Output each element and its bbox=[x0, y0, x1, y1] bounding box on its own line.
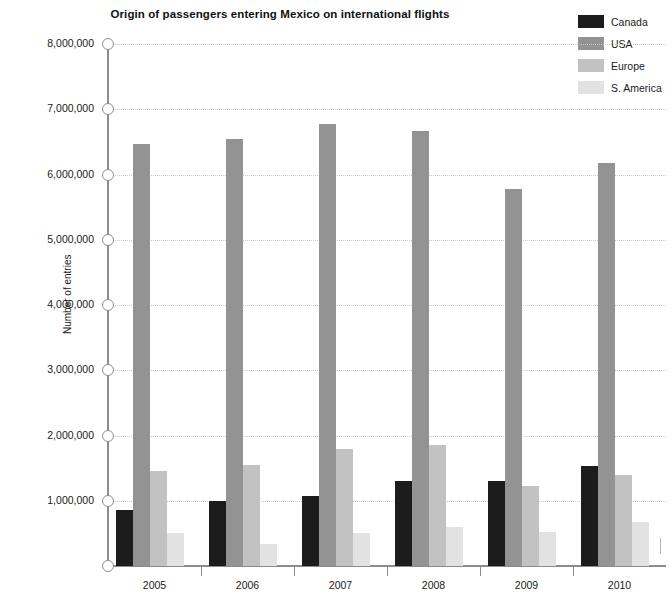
bar-2009-s-america[interactable] bbox=[539, 532, 556, 566]
bar-2009-canada[interactable] bbox=[488, 481, 505, 566]
bar-2006-europe[interactable] bbox=[243, 465, 260, 566]
bar-2009-europe[interactable] bbox=[522, 486, 539, 566]
bar-2007-s-america[interactable] bbox=[353, 533, 370, 566]
y-axis-tick-label: 7,000,000 bbox=[47, 102, 94, 114]
y-axis-tick-label: 3,000,000 bbox=[47, 363, 94, 375]
bar-2007-usa[interactable] bbox=[319, 124, 336, 566]
x-axis-tick-label: 2010 bbox=[575, 579, 665, 591]
bar-2008-canada[interactable] bbox=[395, 481, 412, 566]
x-axis-tick-label: 2009 bbox=[482, 579, 572, 591]
x-axis-tick bbox=[387, 567, 388, 576]
y-axis-tick-marker bbox=[102, 560, 114, 572]
bar-2006-s-america[interactable] bbox=[260, 544, 277, 566]
y-axis-tick-label: 5,000,000 bbox=[47, 233, 94, 245]
y-axis-tick-label: 2,000,000 bbox=[47, 429, 94, 441]
bar-chart: Origin of passengers entering Mexico on … bbox=[0, 0, 672, 609]
chart-title: Origin of passengers entering Mexico on … bbox=[0, 8, 560, 20]
y-axis-tick-label: 6,000,000 bbox=[47, 168, 94, 180]
y-axis-tick-marker bbox=[102, 38, 114, 50]
x-axis-tick bbox=[201, 567, 202, 576]
y-axis-tick-marker bbox=[102, 430, 114, 442]
bar-2010-usa[interactable] bbox=[598, 163, 615, 566]
y-axis-tick-marker bbox=[102, 495, 114, 507]
y-axis-tick-label: 8,000,000 bbox=[47, 37, 94, 49]
y-axis-tick-marker bbox=[102, 169, 114, 181]
bar-2008-usa[interactable] bbox=[412, 131, 429, 566]
bar-2008-s-america[interactable] bbox=[446, 527, 463, 566]
bar-2010-canada[interactable] bbox=[581, 466, 598, 566]
right-edge-tick bbox=[660, 538, 661, 554]
x-axis-tick-label: 2006 bbox=[203, 579, 293, 591]
bar-2007-canada[interactable] bbox=[302, 496, 319, 566]
x-axis-tick-label: 2005 bbox=[110, 579, 200, 591]
bar-2005-europe[interactable] bbox=[150, 471, 167, 566]
bar-2010-europe[interactable] bbox=[615, 475, 632, 566]
x-axis-tick-label: 2007 bbox=[296, 579, 386, 591]
bar-2008-europe[interactable] bbox=[429, 445, 446, 566]
y-axis-title: Number of entries bbox=[62, 255, 73, 334]
bar-2010-s-america[interactable] bbox=[632, 522, 649, 566]
bar-2005-usa[interactable] bbox=[133, 144, 150, 566]
bar-2005-s-america[interactable] bbox=[167, 533, 184, 566]
x-axis-tick-label: 2008 bbox=[389, 579, 479, 591]
y-axis-tick-marker bbox=[102, 299, 114, 311]
x-axis-tick bbox=[573, 567, 574, 576]
y-axis-tick-label: 1,000,000 bbox=[47, 494, 94, 506]
bar-2005-canada[interactable] bbox=[116, 510, 133, 566]
x-axis-tick bbox=[480, 567, 481, 576]
bar-2009-usa[interactable] bbox=[505, 189, 522, 566]
bar-2006-canada[interactable] bbox=[209, 501, 226, 566]
y-axis-tick-label: 4,000,000 bbox=[47, 298, 94, 310]
legend-label: Canada bbox=[611, 16, 648, 28]
legend-swatch-icon bbox=[578, 15, 604, 28]
bars-layer bbox=[108, 44, 666, 566]
bar-2006-usa[interactable] bbox=[226, 139, 243, 566]
bar-2007-europe[interactable] bbox=[336, 449, 353, 566]
x-axis-tick bbox=[294, 567, 295, 576]
y-axis-tick-marker bbox=[102, 234, 114, 246]
legend-item-canada[interactable]: Canada bbox=[578, 12, 672, 31]
